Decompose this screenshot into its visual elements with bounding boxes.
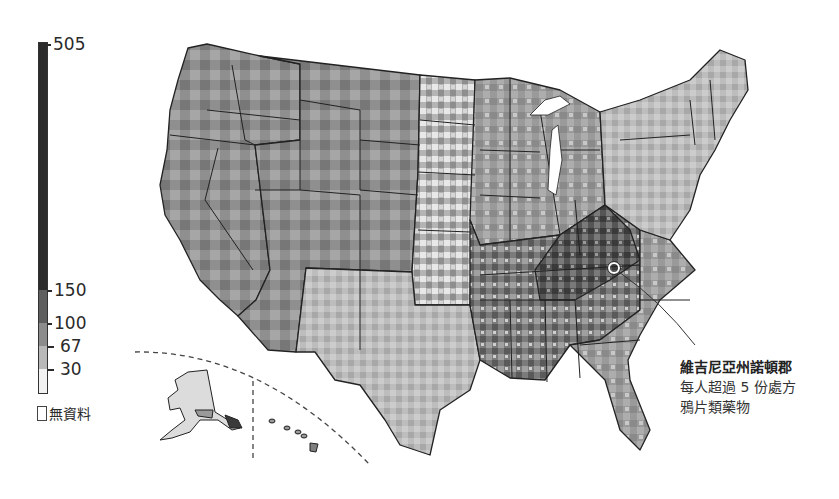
norton-virginia-annotation: 維吉尼亞州諾頓郡 每人超過 5 份處方 鴉片類藥物 [680,357,796,417]
alaska-inset [160,370,242,440]
hawaii-inset [269,419,318,452]
region-northeast [600,50,748,240]
region-plains [412,75,475,305]
annotation-line-3: 鴉片類藥物 [680,397,796,417]
annotation-line-2: 每人超過 5 份處方 [680,377,796,397]
us-county-map [0,0,839,499]
contiguous-us [160,44,748,455]
annotation-title: 維吉尼亞州諾頓郡 [680,357,796,377]
